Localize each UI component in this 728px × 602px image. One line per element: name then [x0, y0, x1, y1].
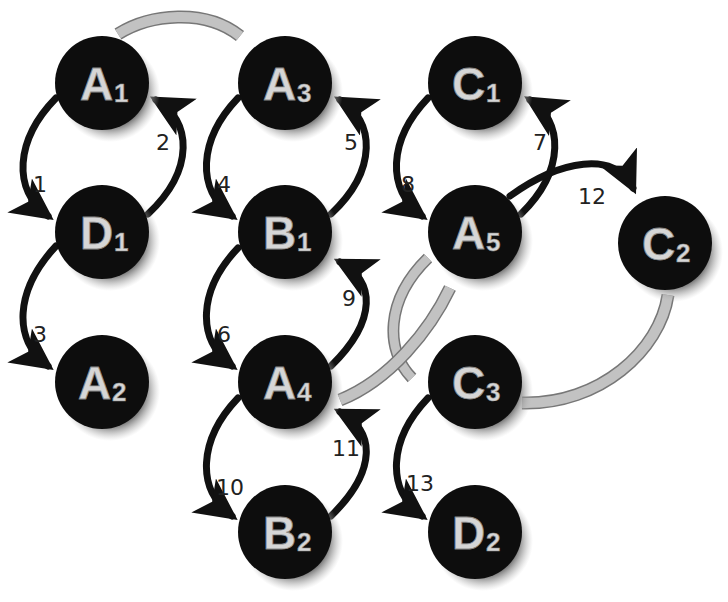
svg-text:2: 2 [297, 527, 311, 557]
svg-text:A: A [263, 357, 296, 409]
svg-text:D: D [80, 207, 113, 259]
edge-label-5: 5 [344, 130, 358, 155]
svg-text:3: 3 [297, 78, 311, 108]
edge-6 [206, 248, 238, 366]
svg-text:1: 1 [114, 78, 128, 108]
nodes: A 1 D 1 A 2 A 3 B 1 [55, 36, 723, 591]
node-a4[interactable]: A 4 [238, 335, 343, 441]
edge-label-6: 6 [217, 322, 231, 347]
edge-label-9: 9 [342, 286, 356, 311]
svg-text:B: B [263, 207, 296, 259]
svg-text:B: B [263, 507, 296, 559]
edge-9 [331, 262, 366, 366]
node-b1[interactable]: B 1 [238, 185, 343, 291]
svg-text:4: 4 [297, 377, 312, 407]
edge-label-8: 8 [401, 172, 415, 197]
edge-label-1: 1 [33, 172, 47, 197]
node-a1[interactable]: A 1 [55, 36, 160, 142]
svg-text:2: 2 [112, 377, 126, 407]
node-d1[interactable]: D 1 [55, 185, 160, 291]
svg-text:A: A [263, 58, 296, 110]
edge-label-12: 12 [578, 184, 606, 209]
edge-label-3: 3 [33, 322, 47, 347]
node-a5[interactable]: A 5 [428, 185, 533, 291]
edge-13 [396, 398, 428, 516]
svg-text:A: A [78, 357, 111, 409]
edge-4 [206, 98, 238, 216]
edge-11 [331, 412, 366, 516]
edge-label-7: 7 [533, 130, 547, 155]
node-c2[interactable]: C 2 [618, 196, 723, 302]
svg-text:D: D [452, 507, 485, 559]
diagram-canvas: A 1 D 1 A 2 A 3 B 1 [0, 0, 728, 602]
node-c3[interactable]: C 3 [428, 335, 533, 441]
svg-text:3: 3 [486, 377, 500, 407]
svg-text:C: C [452, 357, 485, 409]
edge-label-10: 10 [216, 475, 244, 500]
edge-5 [331, 100, 366, 214]
gray-links [118, 17, 668, 403]
node-d2[interactable]: D 2 [428, 485, 533, 591]
node-a2[interactable]: A 2 [55, 335, 160, 441]
svg-text:1: 1 [297, 227, 311, 257]
svg-text:5: 5 [486, 227, 500, 257]
graph-svg: A 1 D 1 A 2 A 3 B 1 [0, 0, 728, 602]
edge-2 [148, 100, 183, 214]
svg-text:A: A [80, 58, 113, 110]
svg-text:2: 2 [676, 238, 690, 268]
svg-text:1: 1 [486, 78, 500, 108]
node-b2[interactable]: B 2 [238, 485, 343, 591]
edge-label-2: 2 [156, 130, 170, 155]
svg-text:A: A [452, 207, 485, 259]
svg-text:1: 1 [114, 227, 128, 257]
edge-8 [396, 98, 428, 216]
svg-text:C: C [642, 218, 675, 270]
edge-1 [23, 98, 56, 216]
edge-label-11: 11 [332, 436, 360, 461]
node-c1[interactable]: C 1 [428, 36, 533, 142]
edge-12 [510, 164, 633, 196]
edge-3 [23, 246, 56, 366]
svg-text:2: 2 [486, 527, 500, 557]
edge-label-13: 13 [406, 471, 434, 496]
svg-text:C: C [452, 58, 485, 110]
node-a3[interactable]: A 3 [238, 36, 343, 142]
edges [23, 98, 633, 516]
edge-label-4: 4 [217, 172, 231, 197]
